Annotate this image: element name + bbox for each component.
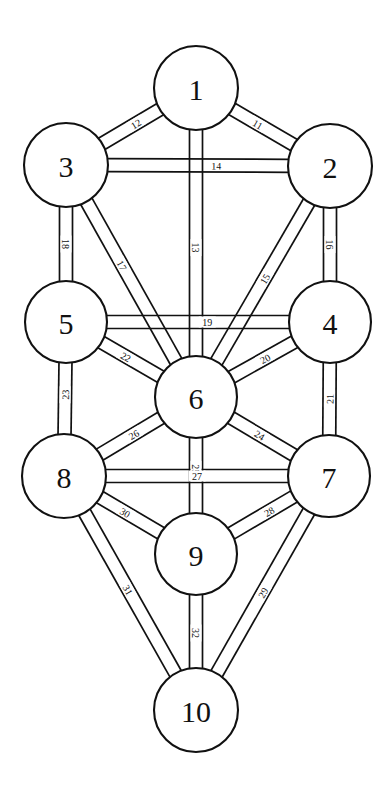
sephira-number: 1: [189, 73, 204, 106]
path-label-group-23: 23: [59, 386, 71, 403]
path-label: 21: [324, 394, 335, 404]
sephira-number: 7: [322, 461, 337, 494]
sephira-4[interactable]: 4: [289, 281, 371, 363]
path-label-group-21: 21: [324, 390, 336, 407]
sephira-6[interactable]: 6: [155, 356, 237, 438]
sephira-number: 4: [323, 307, 338, 340]
path-label: 16: [324, 240, 335, 250]
sephira-2[interactable]: 2: [288, 124, 372, 208]
sephira-number: 9: [189, 539, 204, 572]
path-label: 14: [211, 161, 221, 172]
sephira-number: 10: [181, 695, 211, 728]
sephira-3[interactable]: 3: [24, 123, 108, 207]
sephira-number: 6: [189, 382, 204, 415]
path-band-edge: [107, 159, 290, 160]
tree-of-life-diagram: 12345678910 1112131415161718192021222324…: [0, 0, 388, 791]
sephira-7[interactable]: 7: [288, 435, 370, 517]
path-label: 18: [60, 239, 71, 249]
path-band-edge: [58, 361, 59, 435]
path-band-edge: [106, 172, 289, 173]
path-label-group-14: 14: [208, 160, 225, 172]
tree-of-life-canvas: 12345678910 1112131415161718192021222324…: [0, 0, 388, 791]
path-label: 23: [60, 390, 71, 400]
sephira-number: 8: [57, 461, 72, 494]
path-label-group-19: 19: [199, 317, 216, 329]
sephira-10[interactable]: 10: [154, 668, 238, 752]
path-label-group-32: 32: [190, 625, 202, 642]
path-band-edge: [71, 362, 72, 436]
sephira-number: 3: [59, 150, 74, 183]
path-label: 19: [202, 317, 212, 328]
path-label: 13: [190, 243, 201, 253]
path-label: 32: [190, 628, 201, 638]
path-label: 27: [192, 471, 202, 482]
sephira-1[interactable]: 1: [154, 46, 238, 130]
sephira-9[interactable]: 9: [155, 513, 237, 595]
sephira-8[interactable]: 8: [22, 434, 106, 518]
sephira-5[interactable]: 5: [25, 281, 107, 363]
path-label-group-13: 13: [190, 239, 202, 256]
path-label-group-16: 16: [324, 236, 336, 253]
path-label-group-27: 27: [189, 471, 206, 483]
path-label-group-18: 18: [60, 236, 72, 253]
sephira-number: 5: [59, 307, 74, 340]
sephira-number: 2: [323, 151, 338, 184]
